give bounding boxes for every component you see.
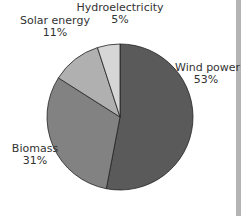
label-biomass-pct: 31%	[10, 155, 60, 167]
label-biomass: Biomass 31%	[10, 143, 60, 167]
label-solar: Solar energy 11%	[20, 15, 90, 39]
label-wind-pct: 53%	[175, 74, 237, 86]
label-solar-pct: 11%	[20, 27, 90, 39]
label-wind: Wind power 53%	[175, 62, 237, 86]
